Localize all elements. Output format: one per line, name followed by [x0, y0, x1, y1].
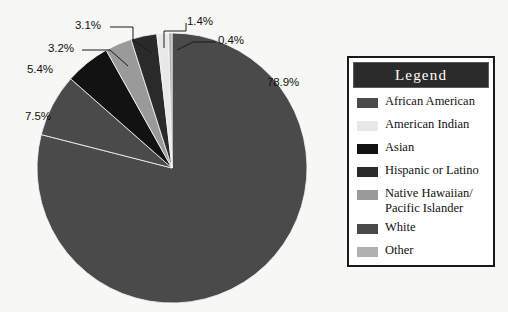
pie-label-african-american: 7.5% — [25, 110, 51, 122]
pie-label-american-indian: 1.4% — [187, 15, 213, 27]
legend-item-label: Asian — [385, 140, 414, 155]
pie-chart-figure: 78.9% 7.5% 5.4% 3.2% 3.1% 1.4% 0.4% Lege… — [0, 0, 508, 312]
legend-title: Legend — [395, 67, 447, 84]
pie-label-other: 0.4% — [218, 34, 244, 46]
legend-item: Other — [357, 243, 493, 262]
legend-item: Asian — [357, 140, 493, 159]
legend-header: Legend — [353, 62, 489, 88]
legend-swatch-icon — [357, 144, 378, 154]
legend-item: Hispanic or Latino — [357, 163, 493, 182]
pie-label-hispanic-latino: 3.1% — [75, 19, 101, 31]
legend-item: American Indian — [357, 117, 493, 136]
legend-box: Legend African AmericanAmerican IndianAs… — [347, 56, 495, 267]
pie-label-asian: 5.4% — [27, 63, 53, 75]
legend-item-label: African American — [385, 94, 475, 109]
legend-item-label: American Indian — [385, 117, 469, 132]
legend-item: White — [357, 220, 493, 239]
legend-swatch-icon — [357, 98, 378, 108]
pie-label-native-hawaiian: 3.2% — [48, 42, 74, 54]
legend-swatch-icon — [357, 190, 378, 200]
legend-item-label: Hispanic or Latino — [385, 163, 479, 178]
legend-item: African American — [357, 94, 493, 113]
legend-swatch-icon — [357, 224, 378, 234]
pie-label-white: 78.9% — [267, 76, 299, 88]
legend-swatch-icon — [357, 247, 378, 257]
legend-swatch-icon — [357, 121, 378, 131]
legend-swatch-icon — [357, 167, 378, 177]
legend-item-label: White — [385, 220, 416, 235]
legend-item: Native Hawaiian/ Pacific Islander — [357, 186, 493, 216]
legend-item-label: Native Hawaiian/ Pacific Islander — [385, 186, 473, 216]
legend-item-label: Other — [385, 243, 413, 258]
legend-item-list: African AmericanAmerican IndianAsianHisp… — [349, 90, 493, 262]
pie-slice-group — [37, 33, 307, 303]
